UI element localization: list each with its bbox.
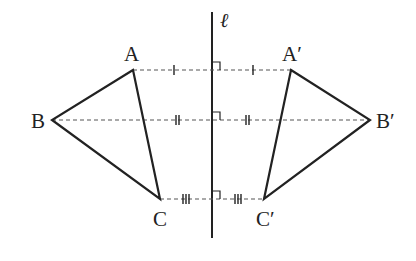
triangle-abc (52, 70, 160, 199)
point-label-c-prime: C′ (256, 209, 275, 230)
right-angle-icon (212, 191, 220, 199)
right-angle-icon (212, 62, 220, 70)
right-angle-icon (212, 112, 220, 120)
point-label-a-prime: A′ (282, 44, 302, 65)
point-label-c: C (153, 209, 167, 230)
point-label-a: A (124, 44, 139, 65)
congruence-ticks (174, 65, 253, 204)
point-label-b: B (31, 111, 45, 132)
triangle-a-prime-b-prime-c-prime (264, 70, 370, 199)
right-angle-markers (212, 62, 220, 199)
reflection-diagram (0, 0, 416, 261)
line-label-l: ℓ (220, 10, 228, 30)
point-label-b-prime: B′ (376, 111, 395, 132)
